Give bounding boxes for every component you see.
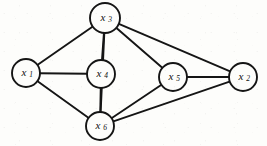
node-x4[interactable]: x4: [87, 60, 115, 88]
edges-layer: [37, 24, 231, 122]
node-x5[interactable]: x5: [159, 63, 187, 91]
nodes-layer: x1x2x3x4x5x6: [12, 3, 257, 140]
node-x3[interactable]: x3: [90, 3, 120, 33]
edge-x1-x3: [37, 26, 93, 65]
node-label-x3: x: [100, 11, 106, 23]
node-label-x5: x: [168, 70, 174, 82]
node-x6[interactable]: x6: [86, 112, 114, 140]
node-label-x2: x: [238, 70, 244, 82]
node-label-x6: x: [95, 119, 101, 131]
node-label-x4: x: [96, 67, 102, 79]
node-subscript-x3: 3: [107, 15, 112, 24]
edge-x1-x6: [37, 81, 89, 118]
node-subscript-x6: 6: [103, 123, 107, 132]
node-label-x1: x: [21, 66, 27, 78]
node-x1[interactable]: x1: [12, 59, 40, 87]
node-subscript-x1: 1: [29, 70, 33, 79]
edge-x1-x4: [39, 73, 87, 74]
node-subscript-x5: 5: [176, 74, 180, 83]
figure-canvas: x1x2x3x4x5x6: [0, 0, 267, 146]
node-subscript-x2: 2: [246, 74, 250, 83]
graph-diagram: x1x2x3x4x5x6: [0, 0, 267, 146]
node-subscript-x4: 4: [104, 71, 108, 80]
node-x2[interactable]: x2: [229, 63, 257, 91]
